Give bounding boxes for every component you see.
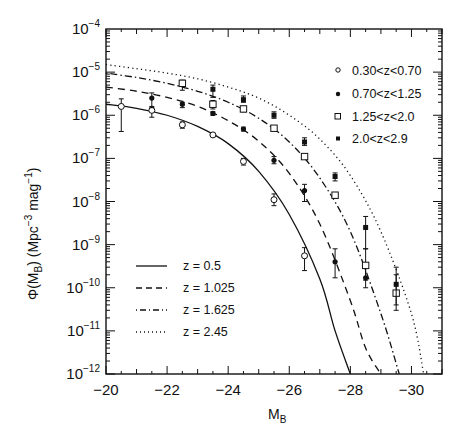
y-axis-title: Φ(MB) (Mpc−3 mag−1) <box>23 168 44 300</box>
x-tick-label: −22 <box>154 381 179 398</box>
data-point-open-circle <box>210 132 216 138</box>
data-point-filled-square <box>241 97 246 102</box>
y-tick-label: 10−10 <box>66 277 100 296</box>
data-point-open-circle <box>179 122 185 128</box>
model-curve-solid <box>106 104 350 374</box>
y-tick-label: 10−4 <box>72 18 101 37</box>
data-point-filled-circle <box>332 259 337 264</box>
data-point-open-circle <box>240 158 246 164</box>
x-axis-title: MB <box>268 406 287 425</box>
filled-square-marker-icon <box>336 137 340 141</box>
y-tick-label: 10−5 <box>72 61 101 80</box>
data-point-filled-square <box>272 113 277 118</box>
data-point-open-circle <box>302 253 308 259</box>
data-point-filled-circle <box>241 126 246 131</box>
data-point-filled-circle <box>180 102 185 107</box>
open-square-marker-icon <box>335 114 341 120</box>
y-tick-label: 10−8 <box>72 191 101 210</box>
x-tick-label: −20 <box>93 381 118 398</box>
data-point-open-circle <box>118 103 124 109</box>
data-point-open-square <box>332 192 338 198</box>
curve-legend: z = 0.5 z = 1.025 z = 1.625 z = 2.45 <box>136 259 235 339</box>
x-tick-label: −24 <box>215 381 240 398</box>
data-point-open-square <box>179 80 185 86</box>
y-tick-label: 10−12 <box>66 363 100 382</box>
luminosity-function-chart: −20−22−24−26−28−3010−1210−1110−1010−910−… <box>0 0 458 445</box>
curve-legend-label-2: z = 1.025 <box>183 281 235 295</box>
data-point-filled-square <box>210 87 215 92</box>
x-tick-label: −30 <box>399 381 424 398</box>
y-tick-label: 10−11 <box>67 320 100 339</box>
x-tick-label: −28 <box>338 381 363 398</box>
data-point-filled-circle <box>149 95 154 100</box>
legend-label-series-3: 1.25<z<2.0 <box>352 110 415 124</box>
data-point-filled-square <box>394 282 399 287</box>
x-tick-label: −26 <box>277 381 302 398</box>
open-circle-marker-icon <box>336 68 340 72</box>
data-point-open-square <box>271 125 277 131</box>
data-point-filled-square <box>302 139 307 144</box>
y-tick-label: 10−7 <box>72 147 101 166</box>
y-tick-label: 10−6 <box>72 104 101 123</box>
data-point-filled-circle <box>210 111 215 116</box>
curve-legend-label-3: z = 1.625 <box>183 303 235 317</box>
y-tick-label: 10−9 <box>72 234 101 253</box>
data-point-filled-circle <box>302 188 307 193</box>
data-point-open-circle <box>271 197 277 203</box>
data-point-open-square <box>301 153 307 159</box>
legend-label-series-2: 0.70<z<1.25 <box>352 87 422 101</box>
data-point-open-square <box>210 101 216 107</box>
data-point-open-circle <box>149 107 155 113</box>
legend-label-series-4: 2.0<z<2.9 <box>352 132 408 146</box>
filled-circle-marker-icon <box>336 92 340 96</box>
curve-legend-label-4: z = 2.45 <box>183 325 228 339</box>
data-point-open-square <box>362 262 368 268</box>
data-point-filled-circle <box>271 158 276 163</box>
data-point-open-square <box>240 106 246 112</box>
legend-label-series-1: 0.30<z<0.70 <box>352 64 422 78</box>
marker-legend: 0.30<z<0.70 0.70<z<1.25 1.25<z<2.0 2.0<z… <box>335 64 422 146</box>
curve-legend-label-1: z = 0.5 <box>183 259 221 273</box>
data-point-filled-square <box>333 174 338 179</box>
data-point-filled-square <box>363 225 368 230</box>
